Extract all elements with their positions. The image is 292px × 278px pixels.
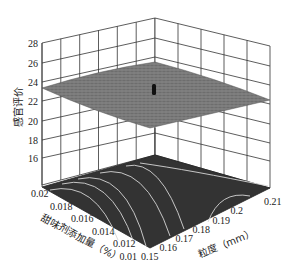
- z-tick: 28: [28, 38, 38, 49]
- x-tick: 0.15: [141, 251, 159, 262]
- x-tick: 0.18: [193, 224, 211, 235]
- y-tick: 0.012: [113, 238, 136, 249]
- z-tick: 26: [28, 58, 38, 69]
- design-point-marker: [152, 84, 156, 95]
- z-axis-label: 感官评价: [12, 87, 24, 127]
- x-tick: 0.19: [213, 215, 231, 226]
- x-tick: 0.17: [176, 233, 194, 244]
- y-tick: 0.018: [50, 201, 73, 212]
- z-tick: 20: [28, 116, 38, 127]
- y-tick: 0.014: [92, 226, 115, 237]
- response-surface-chart: 28 26 24 22 20 18 16 感官评价 0.02 0.018 0.0…: [0, 0, 292, 278]
- x-tick: 0.16: [160, 242, 178, 253]
- z-tick: 22: [28, 96, 38, 107]
- x-tick: 0.21: [264, 196, 282, 207]
- y-tick: 0.02: [31, 188, 49, 199]
- z-tick: 18: [28, 135, 38, 146]
- z-tick: 24: [28, 77, 38, 88]
- x-tick: 0.2: [231, 205, 244, 216]
- z-tick: 16: [28, 153, 38, 164]
- y-tick: 0.016: [71, 213, 94, 224]
- z-axis: 28 26 24 22 20 18 16 感官评价: [12, 38, 42, 187]
